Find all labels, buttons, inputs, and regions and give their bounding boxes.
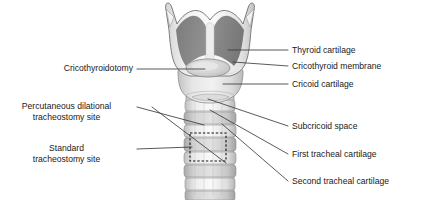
label-thyroid-cartilage: Thyroid cartilage	[292, 45, 356, 56]
cricothyroid-membrane	[186, 59, 230, 77]
tracheal-ring-3	[184, 125, 236, 137]
label-percutaneous-dilational-tracheostomy-site: Percutaneous dilational tracheostomy sit…	[0, 101, 133, 123]
label-standard-line-2: tracheostomy site	[0, 154, 133, 165]
larynx-illustration	[0, 0, 425, 200]
tracheal-ring-6	[184, 165, 236, 177]
tracheal-ring-8	[185, 191, 235, 200]
label-percutaneous-line-1: Percutaneous dilational	[0, 101, 133, 112]
label-cricothyroidotomy: Cricothyroidotomy	[0, 63, 133, 74]
label-cricoid-cartilage: Cricoid cartilage	[292, 79, 354, 90]
label-cricothyroid-membrane: Cricothyroid membrane	[292, 61, 381, 72]
tracheal-ring-4	[184, 138, 236, 151]
label-subcricoid-space: Subcricoid space	[292, 121, 357, 132]
label-second-tracheal-cartilage: Second tracheal cartilage	[292, 176, 389, 187]
label-standard-line-1: Standard	[0, 143, 133, 154]
tracheal-rings	[184, 100, 236, 200]
tracheal-ring-5	[184, 152, 236, 164]
label-cricothyroidotomy-line-1: Cricothyroidotomy	[0, 63, 133, 74]
tracheal-ring-7	[185, 178, 235, 190]
larynx-anatomy-figure: Thyroid cartilage Cricothyroid membrane …	[0, 0, 425, 200]
label-standard-tracheostomy-site: Standard tracheostomy site	[0, 143, 133, 165]
label-first-tracheal-cartilage: First tracheal cartilage	[292, 149, 377, 160]
label-percutaneous-line-2: tracheostomy site	[0, 112, 133, 123]
tracheal-ring-2	[184, 112, 236, 124]
laryngeal-prominence	[206, 23, 214, 61]
